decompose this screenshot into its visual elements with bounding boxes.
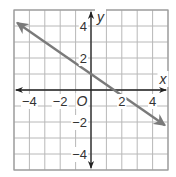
y-tick-label: −4	[72, 147, 87, 162]
x-tick-label: 4	[149, 94, 156, 109]
origin-label: O	[77, 93, 88, 109]
y-tick-label: 4	[80, 19, 87, 34]
x-axis-label: x	[159, 71, 168, 87]
y-tick-label: −2	[72, 115, 87, 130]
x-tick-label: −2	[53, 94, 68, 109]
y-tick-label: 2	[80, 51, 87, 66]
axes	[16, 12, 166, 168]
y-axis-label: y	[96, 9, 105, 25]
tick-labels: −4−22442−2−4Oyx	[21, 9, 169, 162]
x-tick-label: 2	[118, 94, 125, 109]
x-tick-label: −4	[22, 94, 37, 109]
coordinate-plane: −4−22442−2−4Oyx	[0, 0, 176, 177]
